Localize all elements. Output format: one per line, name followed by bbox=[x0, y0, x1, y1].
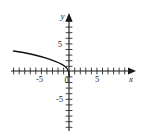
y-tick-label-pos5: 5 bbox=[58, 39, 62, 49]
coordinate-plot-figure: -5 0 5 5 -5 y x bbox=[0, 0, 144, 139]
x-tick-label-neg5: -5 bbox=[36, 74, 43, 84]
y-axis-arrowhead bbox=[66, 13, 73, 21]
x-tick-label-pos5: 5 bbox=[95, 74, 99, 84]
y-tick-label-neg5: -5 bbox=[56, 94, 63, 104]
x-axis-label: x bbox=[128, 74, 133, 84]
origin-label: 0 bbox=[64, 75, 68, 85]
y-axis-label: y bbox=[60, 11, 65, 21]
plot-canvas: -5 0 5 5 -5 y x bbox=[0, 0, 144, 139]
